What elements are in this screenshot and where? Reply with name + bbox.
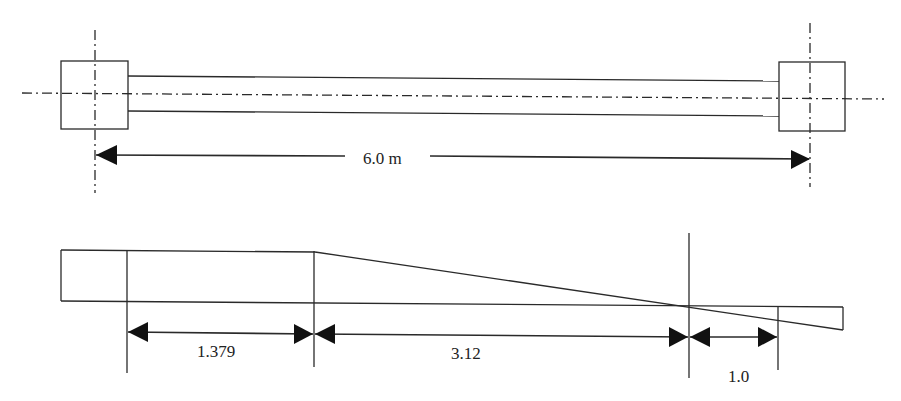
dimension-line-2	[315, 334, 688, 337]
dimension-label-3: 1.0	[728, 367, 749, 386]
dim3-arrowhead-right-icon	[758, 327, 777, 347]
span-arrowhead-right-icon	[791, 150, 810, 169]
horizontal-centerline	[22, 93, 884, 99]
dim3-arrowhead-left-icon	[690, 327, 710, 347]
top-edge-constant	[61, 250, 315, 252]
dimension-label-2: 3.12	[451, 344, 481, 363]
dimension-label-1: 1.379	[197, 342, 235, 361]
dim2-arrowhead-left-icon	[315, 324, 335, 344]
bottom-edge	[61, 301, 843, 307]
dimension-line-1	[128, 332, 313, 334]
span-arrowhead-left-icon	[96, 145, 117, 165]
beam-bottom-edge	[128, 111, 779, 116]
dim2-arrowhead-right-icon	[669, 327, 688, 347]
dim1-arrowhead-right-icon	[294, 324, 313, 344]
beam-top-edge	[128, 76, 779, 81]
dim1-arrowhead-left-icon	[128, 322, 148, 342]
top-edge-taper	[315, 252, 843, 330]
right-support-square	[779, 62, 845, 131]
beam-diagram: 6.0 m 1.379 3.12 1.0	[0, 0, 901, 401]
span-label: 6.0 m	[363, 149, 402, 168]
span-dimension-right-segment	[430, 156, 809, 159]
span-dimension-left-segment	[96, 155, 345, 156]
plan-view	[22, 23, 884, 193]
